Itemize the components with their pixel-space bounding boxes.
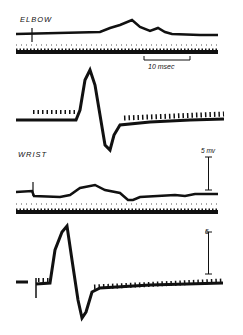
time-scale-label: 10 msec [148, 63, 175, 70]
emg-figure: ELBOW 10 msec WRIST 5 mv 5 [0, 0, 243, 335]
time-scale-bar [144, 56, 190, 60]
amp-scale-bottom-bar [205, 232, 212, 274]
wrist-sensory-trace [16, 185, 218, 200]
wrist-label: WRIST [18, 150, 48, 159]
elbow-label: ELBOW [20, 15, 52, 24]
amp-scale-top-bar [205, 157, 212, 190]
wrist-motor-trace [16, 226, 223, 318]
amp-scale-top-label: 5 mv [201, 147, 216, 154]
